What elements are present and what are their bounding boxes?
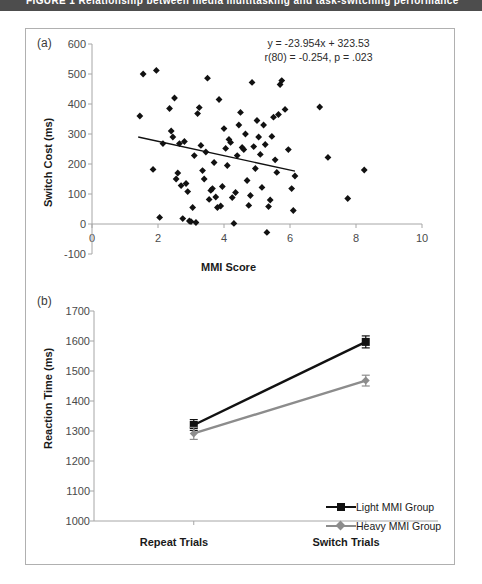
figure-frame: (a) Switch Cost (ms) MMI Score y = -23.9…: [25, 28, 455, 565]
legend-item-light-mmi-group: Light MMI Group: [326, 497, 466, 516]
legend-label-heavy-mmi-group: Heavy MMI Group: [356, 520, 441, 532]
legend-item-heavy-mmi-group: Heavy MMI Group: [326, 516, 466, 535]
legend-label-light-mmi-group: Light MMI Group: [356, 501, 434, 513]
panel-b-plot: [26, 29, 456, 566]
panel-b-legend: Light MMI Group Heavy MMI Group: [326, 497, 466, 535]
figure-caption-bar: FIGURE 1 Relationship between media mult…: [0, 0, 482, 11]
legend-marker-light-mmi-group: [326, 501, 356, 513]
figure-caption-text: FIGURE 1 Relationship between media mult…: [26, 0, 459, 6]
legend-marker-heavy-mmi-group: [326, 520, 356, 532]
